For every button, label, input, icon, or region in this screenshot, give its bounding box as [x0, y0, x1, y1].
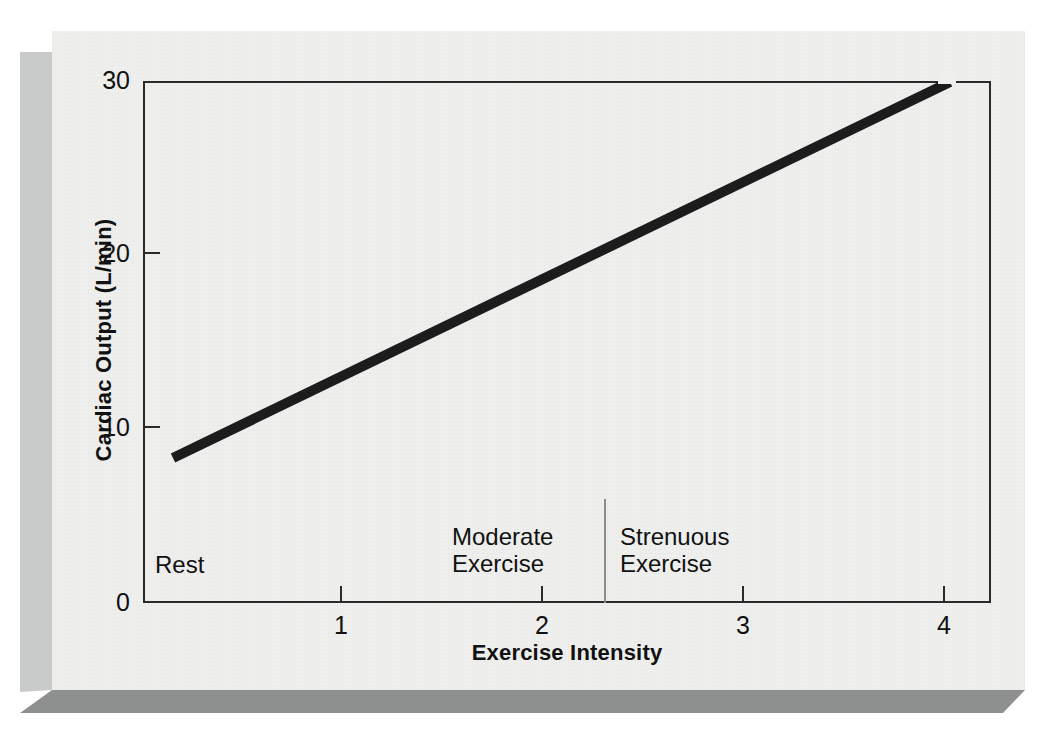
- y-axis-title: Cardiac Output (L/min): [91, 140, 117, 540]
- annotation-rest: Rest: [155, 552, 204, 579]
- line-top-notch: [938, 72, 956, 84]
- y-axis-ticks: [144, 253, 160, 427]
- chart-screenshot: 30 20 10 0 1 2 3 4 Cardiac Output (L/min…: [0, 0, 1047, 737]
- x-tick-label-2: 2: [522, 613, 562, 638]
- x-tick-label-4: 4: [924, 613, 964, 638]
- annotation-strenuous: Strenuous Exercise: [620, 524, 729, 578]
- x-axis-title: Exercise Intensity: [143, 640, 991, 666]
- x-tick-label-1: 1: [321, 613, 361, 638]
- data-line-cardiac-output: [173, 82, 950, 458]
- x-axis-ticks: [341, 586, 944, 602]
- annotation-moderate: Moderate Exercise: [452, 524, 553, 578]
- zone-divider-line: [604, 499, 606, 603]
- y-tick-label-0: 0: [116, 590, 130, 615]
- y-tick-label-30: 30: [102, 68, 130, 93]
- x-tick-label-3: 3: [723, 613, 763, 638]
